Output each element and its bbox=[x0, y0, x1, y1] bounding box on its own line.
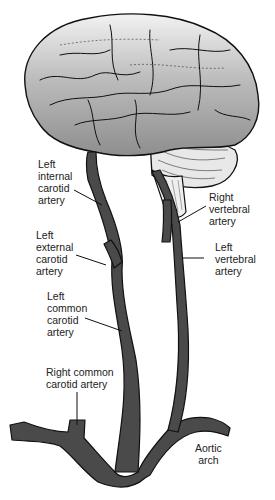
label-aortic-arch: Aortic arch bbox=[195, 442, 222, 466]
label-left-common-carotid-artery: Left common carotid artery bbox=[47, 290, 87, 338]
cerebrum bbox=[25, 14, 259, 156]
label-right-common-carotid-artery: Right common carotid artery bbox=[46, 366, 114, 390]
left-carotid-vessel bbox=[87, 152, 141, 472]
label-left-vertebral-artery: Left vertebral artery bbox=[215, 241, 256, 277]
label-right-vertebral-artery: Right vertebral artery bbox=[209, 191, 250, 227]
label-left-internal-carotid-artery: Left internal carotid artery bbox=[38, 158, 72, 206]
label-left-external-carotid-artery: Left external carotid artery bbox=[36, 229, 73, 277]
right-vertebral-vessel bbox=[162, 200, 172, 242]
